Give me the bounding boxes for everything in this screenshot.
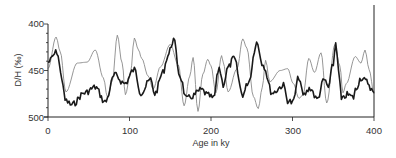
chart: 400 450 500 D/H (‰) 0 100 200 300 400 Ag… <box>0 0 396 158</box>
plot-area <box>48 35 374 111</box>
x-tick-label-300: 300 <box>285 125 301 136</box>
x-tick-label-0: 0 <box>45 125 50 136</box>
y-tick-label-450: 450 <box>28 65 44 76</box>
x-tick-label-100: 100 <box>122 125 138 136</box>
light-curve-line <box>48 35 374 111</box>
y-axis: 400 450 500 D/H (‰) <box>13 18 48 123</box>
x-axis: 0 100 200 300 400 Age in ky <box>44 117 382 148</box>
y-tick-label-400: 400 <box>28 18 44 29</box>
x-axis-label: Age in ky <box>192 138 230 148</box>
y-axis-label: D/H (‰) <box>13 54 23 87</box>
y-ticks <box>44 24 48 117</box>
x-tick-label-400: 400 <box>366 125 382 136</box>
y-tick-label-500: 500 <box>28 112 44 123</box>
x-ticks <box>48 117 374 121</box>
x-tick-label-200: 200 <box>203 125 219 136</box>
